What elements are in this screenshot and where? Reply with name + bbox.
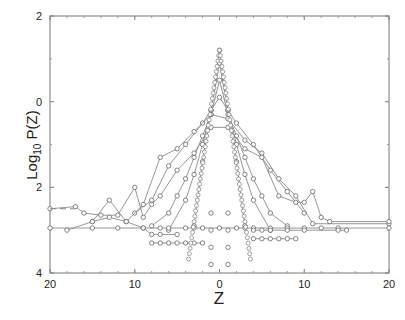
data-point-marker xyxy=(209,228,213,232)
spike-marker xyxy=(234,161,238,165)
spike-marker xyxy=(242,214,246,218)
spike-marker xyxy=(212,86,216,90)
data-point-marker xyxy=(319,215,323,219)
series-s5 xyxy=(90,112,391,226)
data-point-marker xyxy=(200,226,204,230)
spike-marker xyxy=(206,123,210,127)
series-s6 xyxy=(48,125,391,224)
spike-marker xyxy=(187,257,191,261)
data-point-marker xyxy=(192,172,196,176)
spike-marker xyxy=(245,230,249,234)
data-point-marker xyxy=(183,142,187,146)
spike-marker xyxy=(237,177,241,181)
spike-marker xyxy=(237,182,241,186)
data-point-marker xyxy=(251,177,255,181)
data-point-marker xyxy=(150,198,154,202)
x-tick-label: 10 xyxy=(298,278,310,290)
data-point-marker xyxy=(73,204,77,208)
data-point-marker xyxy=(192,129,196,133)
series-line xyxy=(50,127,389,221)
spike-marker xyxy=(239,193,243,197)
spike-marker xyxy=(191,225,195,229)
data-point-marker xyxy=(285,228,289,232)
spike-marker xyxy=(214,75,218,79)
spike-marker xyxy=(222,80,226,84)
spike-marker xyxy=(200,166,204,170)
data-point-marker xyxy=(260,228,264,232)
data-point-marker xyxy=(251,198,255,202)
spike-marker xyxy=(205,134,209,138)
data-point-marker xyxy=(251,142,255,146)
spike-marker xyxy=(201,161,205,165)
data-point-marker xyxy=(294,200,298,204)
series-s10 xyxy=(251,228,349,232)
spike-marker xyxy=(231,139,235,143)
data-point-marker xyxy=(90,226,94,230)
data-point-marker xyxy=(175,168,179,172)
data-point-marker xyxy=(243,155,247,159)
data-point-marker xyxy=(251,228,255,232)
series-s12 xyxy=(209,211,230,267)
data-point-marker xyxy=(183,226,187,230)
data-point-marker xyxy=(268,211,272,215)
data-point-marker xyxy=(277,177,281,181)
spike-marker xyxy=(196,193,200,197)
data-point-marker xyxy=(175,232,179,236)
data-point-marker xyxy=(217,226,221,230)
data-point-marker xyxy=(65,228,69,232)
spike-marker xyxy=(248,252,252,256)
data-point-marker xyxy=(226,262,230,266)
spike-marker xyxy=(244,225,248,229)
spike-marker xyxy=(202,150,206,154)
spike-marker xyxy=(194,209,198,213)
y-tick-label: 2 xyxy=(36,10,42,22)
axis-ticks: 2010010202024 xyxy=(36,10,395,290)
data-point-marker xyxy=(166,164,170,168)
data-point-marker xyxy=(251,237,255,241)
spike-marker xyxy=(188,246,192,250)
data-point-marker xyxy=(183,241,187,245)
spike-marker xyxy=(204,139,208,143)
data-point-marker xyxy=(336,228,340,232)
spike-marker xyxy=(203,145,207,149)
data-point-marker xyxy=(217,95,221,99)
data-point-marker xyxy=(387,226,391,230)
spike-marker xyxy=(223,86,227,90)
data-point-marker xyxy=(226,228,230,232)
data-point-marker xyxy=(243,147,247,151)
y-tick-label: 4 xyxy=(36,267,42,279)
data-point-marker xyxy=(175,194,179,198)
spike-marker xyxy=(189,241,193,245)
series-s11 xyxy=(251,237,298,241)
spike-marker xyxy=(227,113,231,117)
data-point-marker xyxy=(158,155,162,159)
data-point-marker xyxy=(319,226,323,230)
x-tick-label: 20 xyxy=(383,278,395,290)
data-point-marker xyxy=(158,226,162,230)
data-point-marker xyxy=(285,189,289,193)
data-point-marker xyxy=(209,211,213,215)
data-point-marker xyxy=(294,194,298,198)
data-point-marker xyxy=(166,211,170,215)
spike-marker xyxy=(236,171,240,175)
data-point-marker xyxy=(158,241,162,245)
spike-marker xyxy=(240,198,244,202)
data-point-marker xyxy=(302,200,306,204)
spike-marker xyxy=(221,75,225,79)
spike-marker xyxy=(190,230,194,234)
data-point-marker xyxy=(209,262,213,266)
data-point-marker xyxy=(116,213,120,217)
data-point-marker xyxy=(217,78,221,82)
series-layer xyxy=(48,48,391,267)
data-point-marker xyxy=(150,202,154,206)
spike-marker xyxy=(241,209,245,213)
spike-marker xyxy=(220,64,224,68)
data-point-marker xyxy=(175,241,179,245)
spike-marker xyxy=(228,118,232,122)
spike-marker xyxy=(226,107,230,111)
x-axis-label: Z xyxy=(214,289,224,308)
spike-marker xyxy=(246,241,250,245)
data-point-marker xyxy=(158,194,162,198)
data-point-marker xyxy=(226,211,230,215)
data-point-marker xyxy=(268,237,272,241)
